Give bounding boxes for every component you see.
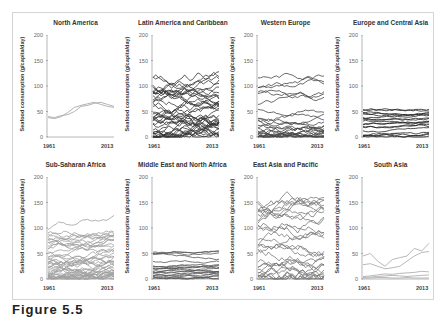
panel-title: South Asia — [348, 161, 433, 168]
y-tick: 100 — [134, 225, 148, 231]
figure-frame: North America Seafood consumption (g/cap… — [12, 12, 434, 300]
y-tick: 200 — [344, 32, 358, 38]
y-tick: 50 — [29, 251, 43, 257]
y-axis-label: Seafood consumption (g/capita/day) — [229, 171, 235, 281]
series-line — [258, 75, 324, 88]
series-line — [48, 102, 114, 117]
y-tick: 0 — [239, 276, 253, 282]
x-tick: 2013 — [311, 285, 323, 291]
chart-panel: South Asia Seafood consumption (g/capita… — [328, 157, 433, 297]
chart-panel: Middle East and North Africa Seafood con… — [118, 157, 223, 297]
series-line — [153, 261, 219, 264]
series-line — [363, 278, 429, 279]
y-tick: 100 — [239, 83, 253, 89]
y-tick: 100 — [344, 83, 358, 89]
plot-area — [256, 177, 326, 281]
x-tick: 1961 — [148, 285, 160, 291]
y-tick: 150 — [29, 58, 43, 64]
x-tick: 2013 — [206, 143, 218, 149]
y-tick: 200 — [344, 174, 358, 180]
series-line — [258, 76, 324, 87]
y-tick: 150 — [344, 58, 358, 64]
y-axis-label: Seafood consumption (g/capita/day) — [124, 171, 130, 281]
chart-panel: Western Europe Seafood consumption (g/ca… — [223, 15, 328, 155]
plot-area — [151, 35, 221, 139]
x-tick: 1961 — [358, 143, 370, 149]
chart-panel: Latin America and Caribbean Seafood cons… — [118, 15, 223, 155]
series-line — [48, 216, 114, 230]
plot-area — [361, 177, 431, 281]
y-tick: 200 — [239, 32, 253, 38]
y-tick: 150 — [29, 200, 43, 206]
y-tick: 0 — [344, 134, 358, 140]
x-tick: 2013 — [101, 285, 113, 291]
panel-title: Latin America and Caribbean — [138, 19, 223, 26]
plot-area — [256, 35, 326, 139]
y-axis-label: Seafood consumption (g/capita/day) — [19, 29, 25, 139]
x-tick: 1961 — [148, 143, 160, 149]
panel-title: Sub-Saharan Africa — [33, 161, 118, 168]
plot-area — [46, 177, 116, 281]
y-tick: 150 — [134, 200, 148, 206]
panel-title: North America — [33, 19, 118, 26]
series-line — [258, 244, 324, 257]
y-tick: 100 — [29, 225, 43, 231]
x-tick: 1961 — [253, 143, 265, 149]
x-tick: 2013 — [101, 143, 113, 149]
y-tick: 150 — [134, 58, 148, 64]
plot-area — [151, 177, 221, 281]
y-axis-label: Seafood consumption (g/capita/day) — [124, 29, 130, 139]
x-tick: 2013 — [206, 285, 218, 291]
series-line — [363, 252, 429, 269]
x-tick: 2013 — [311, 143, 323, 149]
panel-title: East Asia and Pacific — [243, 161, 328, 168]
series-line — [258, 109, 324, 116]
y-tick: 0 — [29, 276, 43, 282]
series-line — [258, 260, 324, 269]
plot-area — [46, 35, 116, 139]
x-tick: 2013 — [416, 285, 428, 291]
chart-panel: North America Seafood consumption (g/cap… — [13, 15, 118, 155]
y-tick: 200 — [134, 32, 148, 38]
x-tick: 1961 — [43, 143, 55, 149]
y-tick: 50 — [239, 251, 253, 257]
y-tick: 50 — [344, 109, 358, 115]
y-tick: 0 — [134, 134, 148, 140]
y-tick: 0 — [29, 134, 43, 140]
panel-title: Middle East and North Africa — [138, 161, 223, 168]
series-line — [363, 243, 429, 266]
panel-title: Western Europe — [243, 19, 328, 26]
y-tick: 0 — [239, 134, 253, 140]
series-line — [153, 102, 219, 121]
y-tick: 150 — [239, 58, 253, 64]
series-line — [363, 128, 429, 133]
y-tick: 50 — [134, 251, 148, 257]
y-tick: 150 — [344, 200, 358, 206]
y-tick: 200 — [29, 174, 43, 180]
plot-area — [361, 35, 431, 139]
y-tick: 100 — [344, 225, 358, 231]
x-tick: 1961 — [253, 285, 265, 291]
panel-title: Europe and Central Asia — [348, 19, 433, 26]
x-tick: 1961 — [43, 285, 55, 291]
y-axis-label: Seafood consumption (g/capita/day) — [334, 29, 340, 139]
y-axis-label: Seafood consumption (g/capita/day) — [334, 171, 340, 281]
y-tick: 150 — [239, 200, 253, 206]
y-tick: 50 — [239, 109, 253, 115]
y-axis-label: Seafood consumption (g/capita/day) — [229, 29, 235, 139]
y-tick: 50 — [29, 109, 43, 115]
figure-caption: Figure 5.5 — [12, 302, 83, 317]
x-tick: 1961 — [358, 285, 370, 291]
x-tick: 2013 — [416, 143, 428, 149]
series-line — [258, 114, 324, 121]
y-tick: 100 — [239, 225, 253, 231]
y-axis-label: Seafood consumption (g/capita/day) — [19, 171, 25, 281]
y-tick: 100 — [134, 83, 148, 89]
y-tick: 50 — [134, 109, 148, 115]
y-tick: 200 — [134, 174, 148, 180]
y-tick: 200 — [29, 32, 43, 38]
chart-panel: Sub-Saharan Africa Seafood consumption (… — [13, 157, 118, 297]
y-tick: 100 — [29, 83, 43, 89]
y-tick: 200 — [239, 174, 253, 180]
y-tick: 0 — [134, 276, 148, 282]
